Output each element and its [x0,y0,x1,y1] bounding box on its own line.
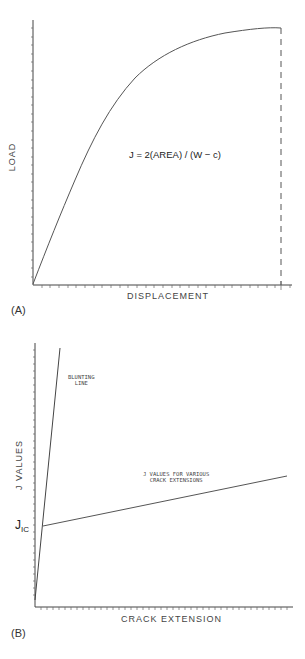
j-values-line-label: J VALUES FOR VARIOUS CRACK EXTENSIONS [143,471,209,483]
blunting-line [35,348,60,600]
jic-subscript: IC [21,525,29,534]
panel-b-tag: (B) [11,627,26,639]
blunting-line-label-2: LINE [68,380,95,386]
jic-label: JIC [15,518,29,534]
j-formula-annotation: J = 2(AREA) / (W − c) [129,149,221,160]
j-values-line-label-2: CRACK EXTENSIONS [143,477,209,483]
panel-a-tag: (A) [11,304,26,316]
panel-b-x-axis-label: CRACK EXTENSION [121,614,222,624]
panel-a-x-axis-label: DISPLACEMENT [127,291,209,301]
j-values-line [43,476,287,526]
panel-a-y-axis-label: LOAD [7,143,17,172]
panel-b-y-axis-label: J VALUES [14,440,24,490]
figure-canvas [0,0,305,659]
blunting-line-label: BLUNTING LINE [68,374,95,386]
